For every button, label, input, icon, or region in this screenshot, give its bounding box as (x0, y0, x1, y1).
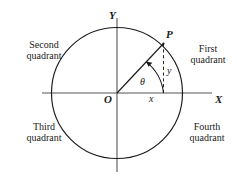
quadrant-label-first: Firstquadrant (180, 44, 236, 66)
origin-label: O (104, 94, 112, 106)
figure-canvas (0, 0, 237, 187)
y-component-label: y (167, 66, 171, 77)
y-axis-label: Y (109, 10, 116, 22)
x-component-label: x (149, 94, 153, 105)
trigonometry-circle-figure: Y X O P x y θ Secondquadrant Firstquadra… (0, 0, 237, 187)
point-p-marker (162, 42, 164, 44)
quadrant-label-second: Secondquadrant (13, 40, 75, 62)
quadrant-label-fourth: Fourthquadrant (178, 122, 236, 144)
quadrant-label-third: Thirdquadrant (13, 122, 75, 144)
angle-theta-label: θ (140, 77, 145, 88)
point-p-label: P (166, 29, 173, 41)
x-axis-label: X (215, 94, 222, 106)
